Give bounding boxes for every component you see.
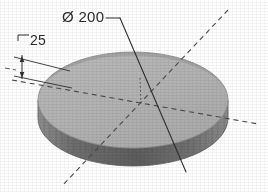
thickness-dimension-text: 25 — [30, 32, 46, 48]
technical-drawing-canvas: Ø 200 25 — [0, 0, 268, 192]
thickness-leader-tick — [18, 35, 29, 41]
thickness-datum-dash — [5, 68, 16, 70]
disc-top-face — [38, 52, 228, 148]
diameter-dimension-text: Ø 200 — [62, 8, 104, 25]
disc-drawing-svg — [0, 0, 268, 192]
